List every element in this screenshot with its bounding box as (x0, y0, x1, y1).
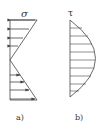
panel-b-shear-stress-diagram (70, 20, 96, 97)
compression-arrows (11, 20, 35, 46)
tau-symbol: τ (68, 8, 73, 18)
hatch-lines (70, 28, 95, 91)
panel-a-normal-stress-diagram (10, 20, 37, 100)
caption-b: b) (75, 113, 83, 122)
parabolic-curve (70, 20, 96, 97)
caption-a: a) (16, 113, 24, 122)
stress-triangles (10, 20, 37, 100)
stress-distribution-figure: σ a) τ b) (0, 0, 101, 134)
sigma-symbol: σ (21, 8, 29, 19)
